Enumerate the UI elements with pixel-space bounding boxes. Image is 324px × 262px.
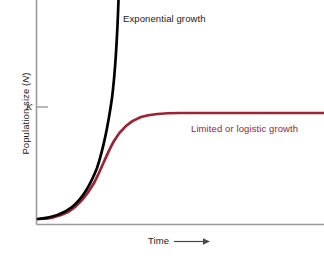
y-axis-label: Population size (N) — [20, 44, 31, 184]
y-axis-label-prefix: Population size ( — [20, 83, 31, 155]
time-arrow-icon — [174, 238, 210, 244]
exponential-growth-label: Exponential growth — [123, 13, 206, 24]
x-axis-label: Time — [148, 235, 169, 246]
y-axis-label-suffix: ) — [20, 72, 31, 75]
logistic-growth-label: Limited or logistic growth — [191, 123, 298, 134]
exponential-growth-curve — [38, 0, 119, 219]
growth-curve-figure: Exponential growth Limited or logistic g… — [0, 0, 324, 262]
carrying-capacity-label: K — [26, 101, 32, 112]
y-axis-label-variable: N — [20, 76, 31, 83]
